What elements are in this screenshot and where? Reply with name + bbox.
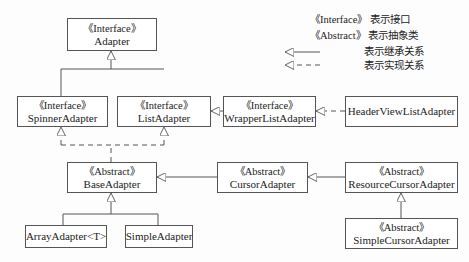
- node-wrapper-list-adapter: 《Interface》 WrapperListAdapter: [223, 96, 316, 127]
- stereotype-label: 《Abstract》: [84, 165, 140, 178]
- stereotype-label: 《Abstract》: [235, 165, 291, 178]
- node-base-adapter: 《Abstract》 BaseAdapter: [67, 162, 157, 193]
- class-diagram: 《Interface》 Adapter 《Interface》 SpinnerA…: [0, 0, 469, 262]
- stereotype-label: 《Interface》: [83, 22, 140, 35]
- node-simple-adapter: SimpleAdapter: [125, 225, 193, 248]
- class-name: HeaderViewListAdapter: [348, 105, 455, 118]
- stereotype-label: 《Interface》: [135, 99, 192, 112]
- stereotype-label: 《Abstract》: [374, 221, 430, 234]
- stereotype-label: 《Interface》: [241, 99, 298, 112]
- stereotype-label: 《Interface》: [34, 99, 91, 112]
- class-name: ResourceCursorAdapter: [348, 178, 454, 191]
- node-header-view-list-adapter: HeaderViewListAdapter: [345, 96, 458, 127]
- class-name: SimpleAdapter: [126, 230, 193, 243]
- class-name: CursorAdapter: [230, 178, 295, 191]
- node-list-adapter: 《Interface》 ListAdapter: [117, 96, 211, 127]
- legend-interface-key: 《Interface》: [310, 14, 367, 25]
- stereotype-label: 《Abstract》: [374, 165, 430, 178]
- class-name: BaseAdapter: [84, 178, 141, 191]
- node-resource-cursor-adapter: 《Abstract》 ResourceCursorAdapter: [345, 162, 458, 193]
- legend-interface-desc: 表示接口: [370, 14, 410, 25]
- class-name: SpinnerAdapter: [28, 112, 98, 125]
- node-simple-cursor-adapter: 《Abstract》 SimpleCursorAdapter: [345, 218, 458, 249]
- legend-abstract-key: 《Abstract》: [310, 30, 366, 41]
- class-name: SimpleCursorAdapter: [353, 234, 450, 247]
- legend-inheritance-desc: 表示继承关系: [364, 45, 424, 58]
- legend-interface: 《Interface》 表示接口: [310, 13, 410, 26]
- node-array-adapter: ArrayAdapter<T>: [25, 225, 107, 248]
- legend-abstract: 《Abstract》 表示抽象类: [310, 29, 418, 42]
- class-name: ListAdapter: [138, 112, 191, 125]
- class-name: Adapter: [94, 35, 129, 48]
- class-name: ArrayAdapter<T>: [26, 230, 106, 243]
- node-spinner-adapter: 《Interface》 SpinnerAdapter: [17, 96, 108, 127]
- class-name: WrapperListAdapter: [224, 112, 315, 125]
- node-cursor-adapter: 《Abstract》 CursorAdapter: [217, 162, 308, 193]
- legend-realization-desc: 表示实现关系: [364, 59, 424, 72]
- node-adapter: 《Interface》 Adapter: [67, 18, 157, 51]
- legend-abstract-desc: 表示抽象类: [368, 30, 418, 41]
